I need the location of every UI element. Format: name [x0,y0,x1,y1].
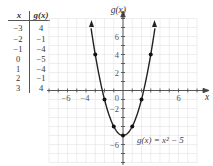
y-tick-label: 4 [115,50,120,60]
data-point [121,134,125,138]
graph: −6 −4 6 6 4 2 −2 −6 0 g(x) x g(x) = x² −… [0,0,213,166]
y-axis-label: g(x) [111,5,126,16]
figure: x g(x) −3 4 −2 −1 −1 −4 0 −5 1 −4 2 −1 3… [0,0,213,166]
x-tick-label: −4 [80,93,90,103]
equation-text: g(x) = x² − 5 [137,135,184,145]
y-tick-label: −2 [110,104,119,114]
data-point [130,125,134,129]
data-point [140,98,144,102]
tick-labels: −6 −4 6 6 4 2 −2 −6 0 [61,32,180,150]
curve-arrow-right-icon [152,20,157,27]
equation-label: g(x) = x² − 5 [137,135,184,145]
data-point [149,53,153,57]
data-point [112,125,116,129]
y-tick-label: −6 [110,140,119,150]
axes [47,11,209,165]
data-point [103,98,107,102]
x-axis-label: x [204,92,210,102]
y-tick-label: 6 [115,32,119,42]
x-tick-label: −6 [61,93,70,103]
y-tick-label: 2 [115,68,119,78]
data-point [93,53,97,57]
x-tick-label: 6 [176,93,180,103]
curve-arrow-left-icon [89,20,94,27]
origin-label: 0 [115,93,119,103]
